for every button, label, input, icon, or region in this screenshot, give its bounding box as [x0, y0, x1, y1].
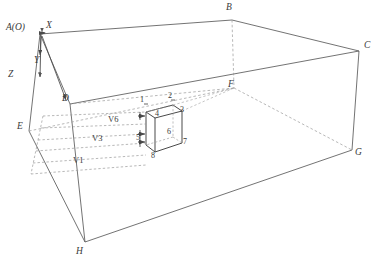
cube-edge-7-8	[155, 143, 182, 152]
velocity-label-v3: V3	[92, 134, 102, 143]
velocity-label-v1: V1	[73, 156, 83, 165]
guide-cube-top-to-F	[173, 88, 234, 105]
edge-F-D	[70, 88, 234, 104]
edge-E-H	[29, 131, 85, 242]
cube-edge-4-3	[155, 111, 182, 118]
cube-edge-4-1	[146, 112, 155, 118]
edge-A-E	[29, 34, 40, 131]
edge-A-B	[40, 20, 232, 34]
edge-C-G	[352, 51, 359, 150]
edge-B-C	[232, 20, 359, 51]
vertex-label-E: E	[17, 122, 23, 132]
cube-vertex-label-8: 8	[151, 152, 155, 160]
domain-box-hidden-edges	[29, 20, 352, 150]
figure-canvas: A(O) X Y Z B C D E F G H 1 2 3 4 5 6 7 8…	[0, 0, 374, 266]
vertex-label-F: F	[228, 80, 234, 90]
cube-edge-6-7	[173, 137, 182, 143]
axis-y-head	[42, 36, 66, 100]
inner-cube-solid-edges	[146, 105, 182, 152]
guide-cube-to-F	[182, 88, 234, 111]
vertex-label-B: B	[226, 3, 232, 13]
axis-z-label: Z	[8, 70, 13, 80]
cube-vertex-label-3: 3	[180, 106, 184, 114]
cube-edge-6-5	[146, 137, 173, 145]
vertex-label-C: C	[364, 41, 370, 51]
guide-v6-upper	[43, 112, 146, 116]
guide-left-wall	[31, 116, 43, 174]
edge-F-G	[234, 88, 352, 150]
edge-H-G	[85, 150, 352, 242]
cube-vertex-label-6: 6	[167, 128, 171, 136]
cube-face-ticks	[140, 100, 175, 147]
guide-v6-lower	[41, 124, 146, 128]
cube-vertex-label-5: 5	[136, 134, 140, 142]
vertex-label-D: D	[62, 94, 69, 104]
guide-v1-upper	[33, 155, 146, 163]
axis-y-label: Y	[34, 56, 39, 66]
guide-v3-lower	[36, 143, 146, 151]
cube-vertex-label-1: 1	[140, 96, 144, 104]
cube-vertex-label-2: 2	[168, 92, 172, 100]
vertex-label-G: G	[355, 148, 362, 158]
axis-origin-label: A(O)	[6, 23, 25, 33]
edge-B-F	[232, 20, 234, 88]
edge-C-D	[70, 51, 359, 104]
axis-x-label: X	[46, 21, 52, 31]
domain-box-solid-edges	[29, 20, 359, 242]
cube-vertex-label-7: 7	[183, 138, 187, 146]
edge-D-H	[70, 104, 85, 242]
cube-vertex-label-4: 4	[155, 110, 159, 118]
vertex-label-H: H	[76, 247, 83, 257]
technical-diagram	[0, 0, 374, 266]
velocity-label-v6: V6	[108, 115, 118, 124]
